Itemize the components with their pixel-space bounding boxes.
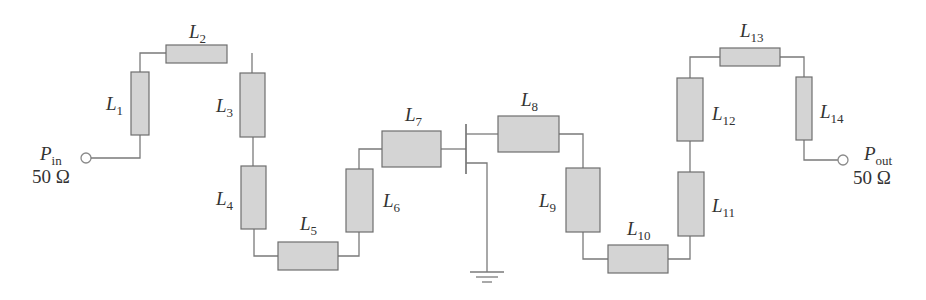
label-L10: L10 (626, 218, 651, 243)
ground-icon (470, 272, 504, 282)
line-L4 (241, 166, 266, 229)
input-port-terminal (81, 153, 91, 163)
label-L14: L14 (819, 101, 844, 126)
line-L2 (166, 45, 227, 63)
input-port-label: Pin (39, 143, 62, 168)
label-L11: L11 (711, 195, 735, 220)
transmission-lines (131, 45, 812, 273)
input-impedance-label: 50 Ω (32, 166, 70, 187)
label-L1: L1 (105, 93, 123, 118)
label-L3: L3 (215, 95, 233, 120)
line-L3 (240, 73, 265, 137)
line-L6 (346, 169, 373, 232)
label-L8: L8 (520, 89, 538, 114)
output-port-terminal (838, 155, 848, 165)
label-L7: L7 (404, 104, 423, 129)
circuit-diagram: Pin 50 Ω (0, 0, 926, 300)
line-L12 (677, 78, 703, 141)
line-L10 (608, 245, 668, 273)
line-L9 (566, 168, 600, 232)
line-L13 (720, 48, 780, 66)
input-port: Pin 50 Ω (32, 143, 91, 187)
label-L5: L5 (299, 213, 317, 238)
line-L1 (131, 72, 149, 135)
label-L9: L9 (538, 190, 556, 215)
label-L4: L4 (215, 188, 234, 213)
output-impedance-label: 50 Ω (853, 167, 891, 188)
output-port-label: Pout (863, 143, 893, 168)
line-L11 (678, 172, 704, 236)
line-L5 (278, 242, 338, 270)
source-wire (466, 163, 487, 272)
label-L13: L13 (739, 20, 764, 45)
line-L8 (498, 116, 559, 152)
label-L12: L12 (711, 103, 736, 128)
label-L6: L6 (382, 190, 401, 215)
line-L14 (796, 77, 812, 140)
line-L7 (382, 131, 441, 167)
output-port: Pout 50 Ω (838, 143, 893, 188)
label-L2: L2 (188, 21, 206, 46)
